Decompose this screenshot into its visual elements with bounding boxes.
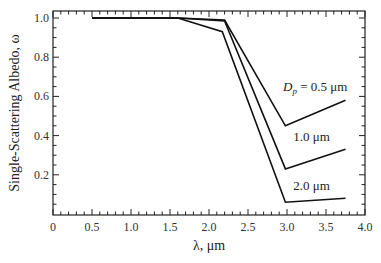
curve-label: 1.0 μm — [293, 129, 330, 144]
y-tick-label: 0.2 — [34, 168, 49, 182]
y-tick-label: 0.8 — [34, 50, 49, 64]
data-series — [92, 18, 346, 202]
y-tick-label: 0.6 — [34, 89, 49, 103]
y-tick-labels: 0.20.40.60.81.0 — [34, 11, 49, 182]
y-tick-label: 0.4 — [34, 129, 49, 143]
x-tick-labels: 00.51.01.52.02.53.03.54.0 — [50, 220, 373, 234]
x-tick-label: 2.0 — [202, 220, 217, 234]
albedo-chart: 00.51.01.52.02.53.03.54.0 0.20.40.60.81.… — [0, 0, 381, 263]
x-axis-title: λ, μm — [193, 238, 225, 253]
x-tick-label: 0 — [50, 220, 56, 234]
y-axis-title: Single-Scattering Albedo, ω — [7, 34, 22, 191]
x-tick-label: 0.5 — [85, 220, 100, 234]
curve-label: 2.0 μm — [293, 178, 330, 193]
series-line — [92, 18, 346, 202]
curve-annotations: Dp = 0.5 μm1.0 μm2.0 μm — [282, 79, 347, 194]
x-tick-label: 2.5 — [241, 220, 256, 234]
x-tick-label: 4.0 — [358, 220, 373, 234]
x-tick-label: 1.0 — [124, 220, 139, 234]
curve-label: Dp = 0.5 μm — [282, 79, 347, 96]
x-tick-label: 1.5 — [163, 220, 178, 234]
y-tick-label: 1.0 — [34, 11, 49, 25]
x-tick-label: 3.5 — [319, 220, 334, 234]
x-tick-label: 3.0 — [280, 220, 295, 234]
series-line — [92, 18, 346, 126]
